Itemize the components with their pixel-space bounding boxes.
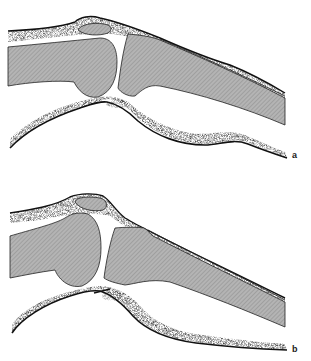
panel-a-bottom-skin-outline xyxy=(10,102,287,158)
panel-a-label: a xyxy=(292,150,297,160)
knee-illustration-svg xyxy=(0,0,311,361)
panel-b xyxy=(10,194,287,350)
panel-b-label: b xyxy=(292,344,298,354)
panel-a xyxy=(8,17,287,158)
panel-b-popliteal-shadow xyxy=(102,291,122,301)
panel-a-femur xyxy=(8,38,117,97)
panel-a-popliteal-shadow xyxy=(106,100,130,108)
figure-caption xyxy=(8,354,308,361)
panel-b-femur xyxy=(10,213,101,286)
knee-illustration-figure: a b xyxy=(0,0,311,361)
